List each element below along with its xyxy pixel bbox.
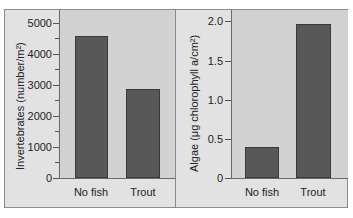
bar-trout bbox=[296, 24, 331, 178]
x-category-label: Trout bbox=[113, 186, 173, 198]
y-tick-label: 4000 bbox=[12, 48, 52, 60]
y-minor-tick bbox=[55, 69, 59, 70]
y-minor-tick bbox=[55, 162, 59, 163]
y-tick bbox=[53, 147, 59, 148]
y-tick-label: 1.5 bbox=[183, 55, 223, 67]
y-tick-label: 0.5 bbox=[183, 133, 223, 145]
y-tick bbox=[53, 85, 59, 86]
y-tick bbox=[53, 178, 59, 179]
y-tick-label: 0 bbox=[183, 172, 223, 184]
y-tick-label: 0 bbox=[12, 172, 52, 184]
y-minor-tick bbox=[55, 38, 59, 39]
bar-no-fish bbox=[245, 147, 279, 178]
y-minor-tick bbox=[55, 131, 59, 132]
y-tick bbox=[225, 21, 231, 22]
y-tick bbox=[225, 178, 231, 179]
x-category-label: No fish bbox=[61, 186, 121, 198]
y-tick bbox=[225, 100, 231, 101]
y-tick bbox=[53, 23, 59, 24]
y-tick-label: 2.0 bbox=[183, 15, 223, 27]
y-tick bbox=[225, 61, 231, 62]
y-tick-label: 5000 bbox=[12, 17, 52, 29]
y-tick bbox=[53, 116, 59, 117]
bar-no-fish bbox=[75, 36, 108, 178]
y-tick bbox=[53, 54, 59, 55]
y-minor-tick bbox=[55, 100, 59, 101]
panel-divider bbox=[175, 9, 176, 208]
y-tick bbox=[225, 139, 231, 140]
x-category-label: Trout bbox=[283, 186, 343, 198]
y-tick-label: 1.0 bbox=[183, 94, 223, 106]
bar-trout bbox=[126, 89, 160, 178]
y-tick-label: 1000 bbox=[12, 141, 52, 153]
y-tick-label: 3000 bbox=[12, 79, 52, 91]
y-tick-label: 2000 bbox=[12, 110, 52, 122]
